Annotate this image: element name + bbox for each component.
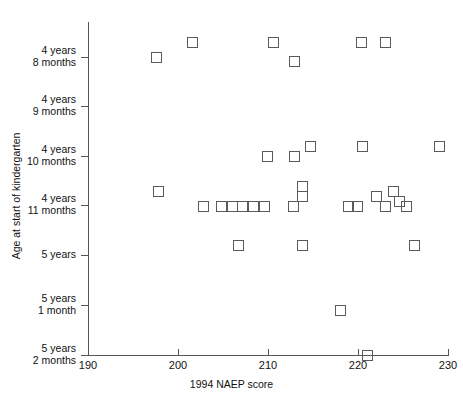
y-tick-2 [81,156,88,157]
data-point [297,240,308,251]
x-tick-label-0: 190 [68,359,108,371]
x-tick-0 [88,349,89,356]
data-point [248,201,259,212]
data-point [401,201,412,212]
y-axis-line [88,22,89,356]
data-point [352,201,363,212]
x-tick-label-4: 230 [428,359,463,371]
x-tick-label-1: 200 [158,359,198,371]
data-point [356,37,367,48]
data-point [357,141,368,152]
data-point [409,240,420,251]
data-point [297,191,308,202]
data-point [227,201,238,212]
data-point [262,151,273,162]
y-tick-label-0: 4 years 8 months [0,45,76,68]
data-point [289,56,300,67]
y-tick-3 [81,205,88,206]
y-tick-5 [81,305,88,306]
data-point [288,201,299,212]
x-tick-4 [448,349,449,356]
data-point [233,240,244,251]
y-tick-1 [81,106,88,107]
data-point [268,37,279,48]
data-point [151,52,162,63]
y-axis-title: Age at start of kindergarten [10,116,22,276]
data-point [380,201,391,212]
y-tick-label-1: 4 years 9 months [0,94,76,117]
data-point [237,201,248,212]
data-point [297,181,308,192]
y-tick-label-6: 5 years 2 months [0,343,76,366]
data-point [198,201,209,212]
x-tick-label-2: 210 [248,359,288,371]
y-tick-4 [81,255,88,256]
data-point [259,201,270,212]
data-point [153,186,164,197]
x-tick-3 [358,349,359,356]
y-tick-6 [81,355,88,356]
data-point [305,141,316,152]
y-tick-0 [81,57,88,58]
x-tick-2 [268,349,269,356]
data-point [289,151,300,162]
data-point [362,350,373,361]
data-point [380,37,391,48]
scatter-chart: 4 years 8 months 4 years 9 months 4 year… [0,0,463,407]
data-point [216,201,227,212]
data-point [335,305,346,316]
x-tick-label-3: 220 [338,359,378,371]
y-tick-label-5: 5 years 1 month [0,293,76,316]
data-point [434,141,445,152]
x-tick-1 [178,349,179,356]
data-point [187,37,198,48]
x-axis-title: 1994 NAEP score [0,378,463,390]
